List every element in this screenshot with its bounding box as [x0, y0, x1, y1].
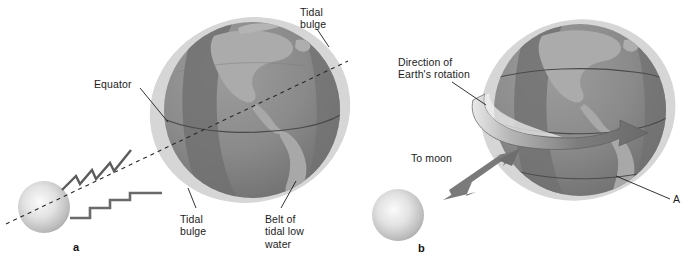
panel-letter-b: b — [418, 242, 425, 254]
leader-tidal-bulge-bottom — [188, 188, 196, 208]
label-equator: Equator — [94, 78, 131, 90]
label-direction-of-earths-rotation: Direction of Earth's rotation — [398, 56, 470, 81]
diagram-canvas — [0, 0, 700, 266]
moon-b — [372, 189, 424, 241]
label-tidal-bulge-top: Tidal bulge — [300, 6, 326, 31]
panel-letter-a: a — [73, 241, 79, 253]
tidal-force-zigzag-lower — [70, 193, 162, 218]
label-tidal-bulge-bottom: Tidal bulge — [180, 213, 206, 238]
panel-a-graphics — [6, 0, 374, 233]
panel-b-graphics — [372, 0, 697, 241]
tidal-force-zigzag-upper — [62, 150, 131, 190]
label-belt-of-tidal-low-water: Belt of tidal low water — [265, 213, 304, 250]
leader-rotation — [452, 82, 486, 105]
label-point-a: A — [673, 193, 680, 205]
label-to-moon: To moon — [411, 152, 452, 164]
tidal-diagram-figure: Tidal bulge Equator Tidal bulge Belt of … — [0, 0, 700, 266]
